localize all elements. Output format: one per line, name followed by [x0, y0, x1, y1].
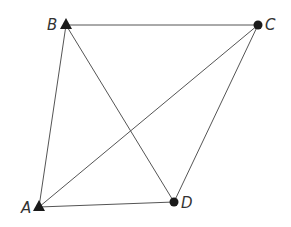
- edge-ac-diagonal: [39, 25, 258, 207]
- edge-da: [39, 202, 174, 207]
- triangle-marker-a-icon: [33, 200, 45, 211]
- dot-marker-d-icon: [170, 198, 179, 207]
- point-label-d: D: [181, 194, 193, 212]
- edges: [39, 25, 258, 207]
- geometry-diagram: B C A D: [0, 0, 291, 227]
- triangle-marker-b-icon: [60, 18, 72, 29]
- markers: [33, 18, 263, 211]
- point-label-a: A: [20, 199, 31, 217]
- edge-cd: [174, 25, 258, 202]
- dot-marker-c-icon: [254, 21, 263, 30]
- edge-ab: [39, 25, 66, 207]
- point-label-c: C: [265, 16, 276, 34]
- point-label-b: B: [47, 16, 57, 34]
- edge-bd-diagonal: [66, 25, 174, 202]
